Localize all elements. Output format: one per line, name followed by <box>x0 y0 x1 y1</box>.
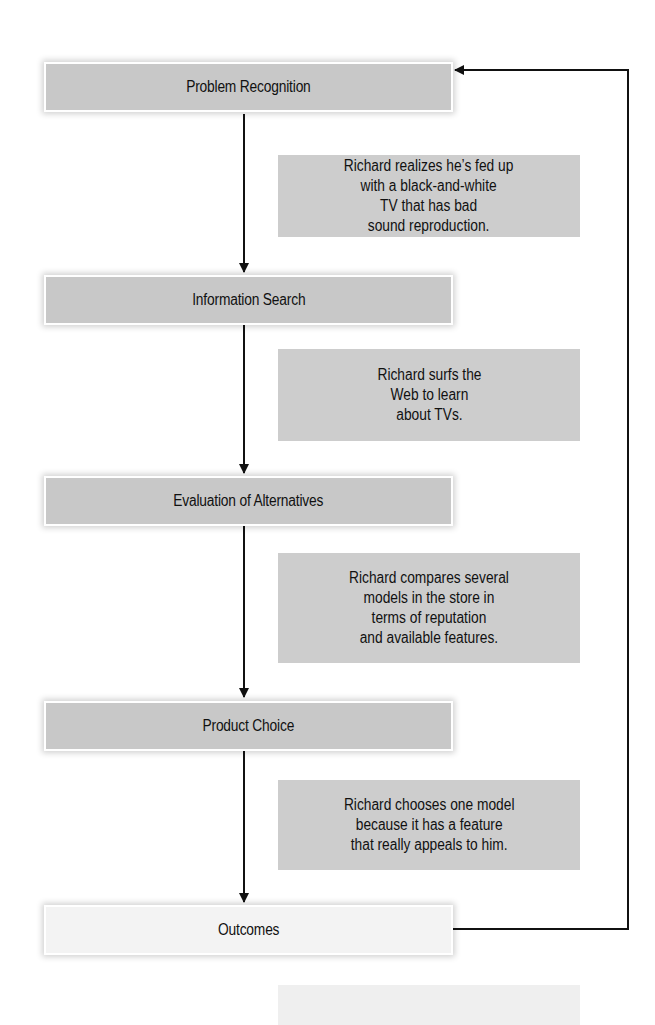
note-text: Richard chooses one model because it has… <box>344 795 515 855</box>
step-problem-recognition: Problem Recognition <box>44 62 453 112</box>
step-outcomes: Outcomes <box>44 905 453 955</box>
step-label: Product Choice <box>203 717 295 735</box>
note-evaluation-of-alternatives: Richard compares several models in the s… <box>278 553 580 663</box>
note-text: Richard surfs the Web to learn about TVs… <box>377 365 481 425</box>
step-information-search: Information Search <box>44 275 453 325</box>
note-text: Richard realizes he’s fed up with a blac… <box>344 156 514 236</box>
step-evaluation-of-alternatives: Evaluation of Alternatives <box>44 476 453 526</box>
note-product-choice: Richard chooses one model because it has… <box>278 780 580 870</box>
note-text: Richard compares several models in the s… <box>349 568 509 648</box>
step-label: Evaluation of Alternatives <box>173 492 323 510</box>
step-label: Information Search <box>192 291 305 309</box>
note-problem-recognition: Richard realizes he’s fed up with a blac… <box>278 155 580 237</box>
step-label: Problem Recognition <box>186 78 310 96</box>
step-label: Outcomes <box>218 921 279 939</box>
note-information-search: Richard surfs the Web to learn about TVs… <box>278 349 580 441</box>
note-outcomes-clipped <box>278 985 580 1025</box>
step-product-choice: Product Choice <box>44 701 453 751</box>
